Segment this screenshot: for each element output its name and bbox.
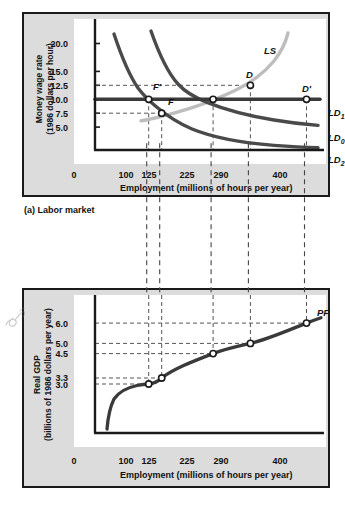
handwritten-margin-scribble (2, 306, 28, 332)
marker-pf-100 (146, 381, 152, 387)
caption-labor-market: (a) Labor market (24, 205, 95, 215)
panel-a-ytick-12-5: 12.5 (28, 81, 68, 91)
panel-a-ytick-15: 15.0 (28, 67, 68, 77)
marker-point-intersection-225 (210, 96, 216, 102)
marker-pf-400 (303, 320, 309, 326)
panel-b-plot-area: PF (74, 295, 326, 447)
label-point-d-prime: D′ (302, 83, 311, 94)
panel-a-svg (74, 19, 326, 164)
label-point-f-prime: F′ (153, 81, 161, 92)
panel-labor-market: Money wage rate (1986 dollars per hour) … (22, 12, 330, 197)
panel-a-xtick-0: 0 (60, 170, 88, 180)
panel-a-xtick-125: 125 (136, 170, 162, 180)
panel-b-svg (74, 295, 326, 447)
panel-b-ytick-5: 5.0 (28, 339, 68, 349)
label-point-d: D (246, 69, 253, 80)
panel-a-ytick-5: 5.0 (28, 123, 68, 133)
panel-b-ytick-3: 3.0 (28, 380, 68, 390)
panel-a-guide-lines (95, 85, 307, 150)
marker-point-d-prime (303, 96, 309, 102)
panel-a-plot-area: F′ F D D′ LS (74, 19, 326, 164)
panel-a-ytick-10: 10.0 (28, 95, 68, 105)
label-curve-ld1: LD1 (328, 107, 345, 120)
marker-pf-225 (210, 351, 216, 357)
label-curve-ld0: LD0 (328, 132, 345, 145)
curve-labor-demand-ld2 (114, 34, 318, 148)
panel-a-xtick-225: 225 (174, 170, 200, 180)
label-curve-ld2: LD2 (328, 154, 345, 167)
curve-production-function-pf (107, 318, 321, 429)
panel-b-ytick-4-5: 4.5 (28, 349, 68, 359)
panel-b-x-axis-title: Employment (millions of hours per year) (120, 470, 293, 480)
panel-b-xtick-400: 400 (267, 456, 293, 466)
marker-pf-290 (247, 340, 253, 346)
panel-a-xtick-290: 290 (208, 170, 234, 180)
panel-b-xtick-125: 125 (136, 456, 162, 466)
marker-point-f (159, 110, 165, 116)
label-curve-pf: PF (317, 307, 329, 318)
label-curve-ls: LS (264, 45, 276, 56)
panel-production-function: Real GDP (billions of 1986 dollars per y… (22, 288, 330, 488)
panel-b-xtick-0: 0 (60, 456, 88, 466)
marker-point-d (247, 82, 253, 88)
panel-a-xtick-400: 400 (267, 170, 293, 180)
panel-b-xtick-290: 290 (208, 456, 234, 466)
label-point-f: F (168, 96, 174, 107)
panel-a-x-axis-title: Employment (millions of hours per year) (120, 183, 293, 193)
marker-point-f-prime (146, 96, 152, 102)
marker-pf-125 (159, 375, 165, 381)
panel-a-ytick-20: 20.0 (28, 39, 68, 49)
panel-b-xtick-225: 225 (174, 456, 200, 466)
panel-b-guide-lines (95, 295, 307, 384)
panel-a-ytick-7-5: 7.5 (28, 109, 68, 119)
panel-b-ytick-6: 6.0 (28, 319, 68, 329)
